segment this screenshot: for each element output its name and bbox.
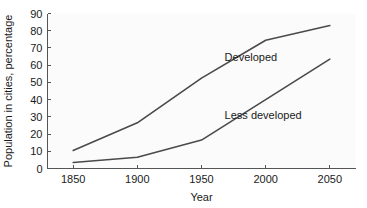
x-tick-label: 1900 — [125, 173, 149, 185]
x-tick-label: 1950 — [189, 173, 213, 185]
x-tick-label: 2000 — [253, 173, 277, 185]
y-tick-label: 0 — [36, 163, 42, 175]
y-tick-label: 50 — [30, 76, 42, 88]
x-tick-label: 2050 — [318, 173, 342, 185]
line-chart: 0102030405060708090 18501900195020002050… — [0, 0, 367, 208]
y-axis-title: Population in cities, percentage — [2, 15, 14, 168]
y-tick-label: 40 — [30, 94, 42, 106]
x-axis-title: Year — [190, 191, 213, 203]
series-label-developed: Developed — [225, 51, 278, 63]
y-tick-label: 60 — [30, 59, 42, 71]
y-tick-label: 70 — [30, 42, 42, 54]
series-label-less-developed: Less developed — [225, 109, 302, 121]
x-tick-label: 1850 — [61, 173, 85, 185]
plot-background — [48, 14, 356, 169]
y-tick-label: 20 — [30, 128, 42, 140]
chart-container: 0102030405060708090 18501900195020002050… — [0, 0, 367, 208]
y-tick-label: 30 — [30, 111, 42, 123]
y-tick-label: 90 — [30, 8, 42, 20]
y-tick-label: 80 — [30, 25, 42, 37]
y-tick-label: 10 — [30, 145, 42, 157]
